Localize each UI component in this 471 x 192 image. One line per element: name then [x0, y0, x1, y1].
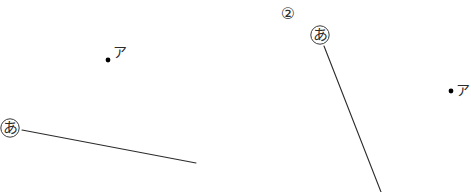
- figure-1-ray-line: [22, 130, 196, 163]
- figure-1-point-label: ア: [113, 45, 127, 59]
- figure-2-group: [279, 5, 454, 192]
- figure-1-group: [1, 58, 196, 163]
- figure-1-point-dot: [106, 58, 111, 63]
- figure-1-vertex-marker-label: あ: [3, 121, 18, 136]
- figure-2-number-label: ②: [281, 6, 295, 22]
- figure-drawing-layer: [0, 0, 471, 192]
- figure-2-vertex-marker-label: あ: [313, 28, 328, 43]
- worksheet-canvas: あ ア ② あ ア: [0, 0, 471, 192]
- figure-2-point-label: ア: [456, 83, 470, 97]
- figure-2-ray-line: [324, 46, 381, 192]
- figure-2-point-dot: [449, 89, 454, 94]
